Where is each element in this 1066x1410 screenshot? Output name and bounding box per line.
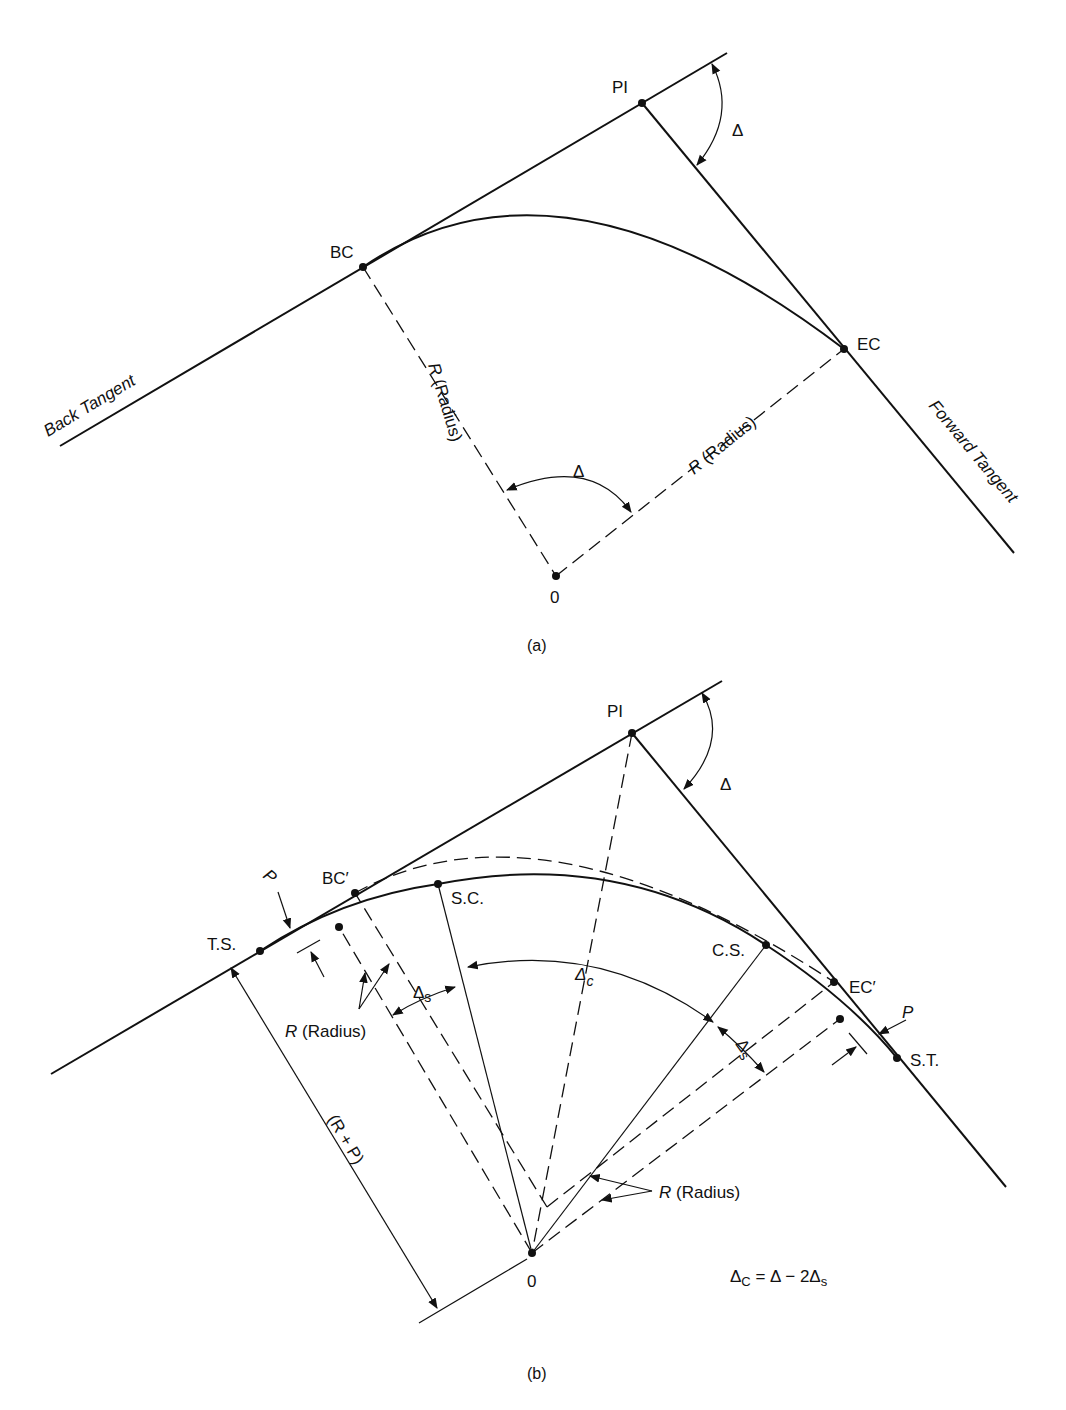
pi-to-center-line xyxy=(532,733,632,1253)
delta-c-arc xyxy=(468,960,713,1022)
radius-dashed-left-2 xyxy=(355,893,547,1207)
delta-label-center: Δ xyxy=(573,462,584,481)
circular-curve-b xyxy=(438,874,766,945)
radius-dashed-left-1 xyxy=(339,927,532,1253)
delta-label-pi: Δ xyxy=(732,121,743,140)
sc-label: S.C. xyxy=(451,889,484,908)
r-plus-p-label: (R + P) xyxy=(324,1111,368,1167)
pi-point xyxy=(638,99,646,107)
offset-circular-curve xyxy=(355,857,834,982)
pi-point-b xyxy=(628,729,636,737)
back-tangent-label: Back Tangent xyxy=(40,370,139,440)
ts-point xyxy=(256,947,264,955)
p-label-left: P xyxy=(259,866,280,888)
delta-arc-center xyxy=(507,477,631,512)
center-label-b: 0 xyxy=(527,1272,536,1291)
radius-sc xyxy=(438,884,532,1253)
cs-label: C.S. xyxy=(712,941,745,960)
delta-arc-pi xyxy=(697,64,722,165)
p-arrow-left-1 xyxy=(278,892,290,928)
figure-b: PI Δ BC′ S.C. T.S. C.S. EC′ S.T. 0 P P Δ… xyxy=(51,681,1006,1382)
forward-tangent-line-b xyxy=(632,733,1006,1187)
pi-label-b: PI xyxy=(607,702,623,721)
bc-prime-label: BC′ xyxy=(322,869,349,888)
pi-label: PI xyxy=(612,78,628,97)
ec-point xyxy=(840,345,848,353)
radius-label-right-b: R (Radius) xyxy=(659,1183,740,1202)
exit-spiral xyxy=(766,945,897,1058)
cs-point xyxy=(762,941,770,949)
st-point xyxy=(893,1054,901,1062)
delta-s-label-right: Δs xyxy=(729,1035,758,1063)
radius-cs xyxy=(532,945,766,1253)
highway-curve-diagram: PI BC EC 0 Δ Δ Back Tangent Forward Tang… xyxy=(0,0,1066,1410)
forward-tangent-label: Forward Tangent xyxy=(925,396,1023,507)
figure-a: PI BC EC 0 Δ Δ Back Tangent Forward Tang… xyxy=(40,53,1022,654)
radius-leader-left-2 xyxy=(359,964,389,1009)
center-label: 0 xyxy=(550,588,559,607)
delta-arc-pi-b xyxy=(684,693,713,789)
radius-label-left: R (Radius) xyxy=(424,361,466,444)
figure-a-caption: (a) xyxy=(527,637,547,654)
delta-s-label-left: Δs xyxy=(413,983,431,1005)
bc-point xyxy=(359,263,367,271)
radius-leader-right-1 xyxy=(590,1176,652,1191)
p-tick-left xyxy=(297,940,320,953)
shifted-point-left xyxy=(335,923,343,931)
figure-b-caption: (b) xyxy=(527,1365,547,1382)
ec-prime-label: EC′ xyxy=(849,978,876,997)
radius-leader-right-2 xyxy=(602,1191,652,1200)
st-label: S.T. xyxy=(910,1051,939,1070)
bc-label: BC xyxy=(330,243,354,262)
p-arrow-right-1 xyxy=(879,1020,906,1034)
circular-curve xyxy=(363,215,844,349)
center-point-o-b xyxy=(528,1249,536,1257)
p-arrow-right-2 xyxy=(832,1047,856,1065)
p-arrow-left-2 xyxy=(311,952,324,977)
radius-label-right: R (Radius) xyxy=(685,412,760,478)
ec-label: EC xyxy=(857,335,881,354)
p-label-right: P xyxy=(902,1003,914,1022)
delta-label-pi-b: Δ xyxy=(720,775,731,794)
formula-label: ΔC = Δ − 2Δs xyxy=(730,1267,828,1289)
bc-prime-point xyxy=(351,889,359,897)
sc-point xyxy=(434,880,442,888)
center-point-o xyxy=(552,572,560,580)
radius-label-left-b: R (Radius) xyxy=(285,1022,366,1041)
radius-dashed-right-1 xyxy=(532,1019,840,1253)
forward-tangent-line xyxy=(642,103,1014,553)
base-line xyxy=(419,1259,527,1323)
ts-label: T.S. xyxy=(207,935,236,954)
radius-dashed-right-2 xyxy=(547,982,834,1207)
shifted-point-right xyxy=(836,1015,844,1023)
ec-prime-point xyxy=(830,978,838,986)
